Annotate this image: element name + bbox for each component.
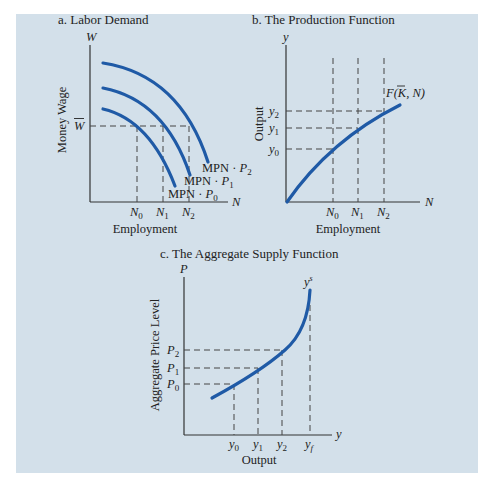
- chart-a-tick-n2: N2: [181, 205, 195, 221]
- chart-b-tick-n0: N0: [325, 205, 339, 221]
- chart-b-ylabel: Output: [252, 106, 266, 141]
- chart-a-wbar-label: W: [74, 119, 86, 133]
- chart-b-tick-y1: y1: [267, 121, 279, 137]
- chart-a-tick-n0: N0: [129, 205, 143, 221]
- chart-b-y-symbol: y: [281, 30, 289, 44]
- chart-c-tick-yf: yf: [303, 437, 315, 453]
- chart-b-curve-label: F(K, N): [385, 86, 425, 100]
- chart-b-tick-y0: y0: [267, 142, 280, 158]
- chart-b-x-symbol: N: [424, 195, 434, 209]
- chart-a-curve-p0: [103, 109, 175, 186]
- chart-c-ylabel: Aggregate Price Level: [148, 298, 162, 411]
- chart-c-y-symbol: P: [179, 262, 188, 276]
- chart-b-tick-n1: N1: [350, 205, 364, 221]
- chart-aggregate-supply: c. The Aggregate Supply Function P y ys …: [148, 246, 342, 467]
- chart-labor-demand: a. Labor Demand W N W MPN · P2 MPN · P1 …: [55, 12, 252, 236]
- chart-c-tick-p1: P1: [166, 361, 179, 377]
- chart-a-xlabel: Employment: [113, 222, 178, 236]
- chart-b-title: b. The Production Function: [252, 12, 395, 27]
- chart-a-tick-n1: N1: [155, 205, 169, 221]
- chart-c-curve: [212, 290, 310, 398]
- chart-production-function: b. The Production Function y N F(K, N) y…: [252, 12, 434, 236]
- figure-svg: a. Labor Demand W N W MPN · P2 MPN · P1 …: [0, 0, 494, 488]
- chart-b-tick-y2: y2: [267, 104, 279, 120]
- chart-c-title: c. The Aggregate Supply Function: [160, 246, 339, 261]
- chart-a-label-p0: MPN · P0: [168, 187, 218, 203]
- chart-c-tick-y0: y0: [227, 437, 240, 453]
- chart-b-xlabel: Employment: [316, 222, 381, 236]
- chart-c-tick-p2: P2: [166, 343, 179, 359]
- chart-a-title: a. Labor Demand: [58, 12, 149, 27]
- chart-a-ylabel: Money Wage: [55, 86, 69, 153]
- chart-a-x-symbol: N: [231, 195, 241, 209]
- chart-c-x-symbol: y: [334, 427, 342, 441]
- chart-c-tick-y2: y2: [275, 437, 287, 453]
- chart-c-curve-label: ys: [302, 274, 313, 289]
- chart-a-y-symbol: W: [86, 30, 98, 44]
- chart-b-tick-n2: N2: [376, 205, 390, 221]
- chart-c-tick-p0: P0: [166, 377, 180, 393]
- chart-c-tick-y1: y1: [251, 437, 263, 453]
- chart-b-curve: [287, 105, 400, 202]
- chart-c-xlabel: Output: [242, 453, 277, 467]
